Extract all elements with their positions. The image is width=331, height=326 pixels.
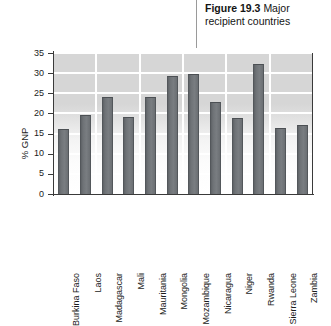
x-axis-tick-label: Mauritania [156, 273, 170, 315]
y-axis-line [53, 51, 54, 196]
y-axis-tick-label: 35 [4, 49, 44, 58]
x-axis-tick-label: Nicaragua [221, 273, 235, 314]
x-axis-tick-label: Mongolia [177, 273, 191, 310]
y-axis-tick-label: 30 [4, 69, 44, 78]
x-axis-tick-label: Burkina Faso [69, 273, 83, 326]
x-axis-tick-label: Mali [134, 273, 148, 290]
bar [188, 74, 199, 194]
bar [58, 129, 69, 194]
y-axis-tick [48, 134, 53, 135]
y-axis-tick [48, 194, 53, 195]
y-axis-tick [48, 154, 53, 155]
y-axis-tick [48, 53, 53, 54]
bar [145, 97, 156, 194]
plot-area [53, 53, 313, 194]
x-axis-labels: Burkina FasoLaosMadagascarMaliMauritania… [53, 196, 313, 275]
x-axis-line [53, 194, 314, 195]
y-axis-tick [48, 113, 53, 114]
x-axis-tick-label: Niger [242, 273, 256, 295]
bar-series [53, 53, 312, 194]
x-axis-tick-label: Madagascar [112, 273, 126, 323]
bar [275, 128, 286, 194]
x-axis-tick-label: Sierra Leone [286, 273, 300, 325]
bar [253, 64, 264, 194]
bar [210, 102, 221, 194]
bar [297, 125, 308, 194]
x-axis-tick-label: Rwanda [264, 273, 278, 306]
x-axis-tick-label: Laos [91, 273, 105, 293]
bar [102, 97, 113, 194]
y-axis-title: % GNP [19, 114, 30, 174]
y-axis-tick [48, 174, 53, 175]
bar [232, 118, 243, 194]
y-axis-tick-label: 25 [4, 89, 44, 98]
y-axis-tick [48, 73, 53, 74]
bar [167, 76, 178, 194]
x-axis-tick-label: Mozambique [199, 273, 213, 325]
y-axis-tick [48, 93, 53, 94]
bar [123, 117, 134, 194]
bar [80, 115, 91, 194]
x-axis-tick-label: Zambia [307, 273, 321, 303]
y-axis-tick-label: 0 [4, 190, 44, 199]
